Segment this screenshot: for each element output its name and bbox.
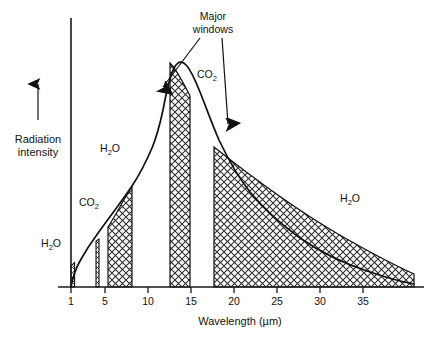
tick-label-10: 10: [142, 295, 154, 307]
x-axis-tick-labels: 1 5 10 15 20 25 30 35: [68, 295, 369, 307]
co2-2-sub: 2: [213, 74, 217, 83]
co2-2-main: CO: [197, 68, 213, 80]
tick-label-1: 1: [68, 295, 74, 307]
y-axis-title-line1: Radiation: [15, 133, 61, 145]
callout-leader-right: [222, 38, 228, 124]
svg-text:CO2: CO2: [197, 68, 217, 83]
co2-1-sub: 2: [95, 202, 99, 211]
svg-text:H2O: H2O: [100, 142, 120, 157]
tick-label-30: 30: [314, 295, 326, 307]
band-label-co2-2: CO2: [197, 68, 217, 83]
absorption-band-co2-1: [96, 239, 99, 287]
y-axis-title-line2: intensity: [18, 146, 59, 158]
absorption-band-h2o-2: [108, 186, 132, 287]
svg-text:H2O: H2O: [41, 237, 61, 252]
callout-label-line2: windows: [192, 23, 233, 35]
radiation-spectrum-figure: 1 5 10 15 20 25 30 35 Wavelength (µm) Ra…: [0, 0, 441, 338]
tick-label-25: 25: [271, 295, 283, 307]
h2o-1-main: H: [41, 237, 49, 249]
x-axis-title: Wavelength (µm): [198, 315, 282, 327]
x-axis-ticks: [71, 287, 363, 293]
callout-label-line1: Major: [200, 10, 227, 22]
chart-svg: 1 5 10 15 20 25 30 35 Wavelength (µm) Ra…: [0, 0, 441, 338]
tick-label-15: 15: [185, 295, 197, 307]
h2o-3-main: H: [340, 192, 348, 204]
h2o-2-tail: O: [112, 142, 120, 154]
tick-label-20: 20: [228, 295, 240, 307]
tick-label-5: 5: [102, 295, 108, 307]
tick-label-35: 35: [357, 295, 369, 307]
svg-text:H2O: H2O: [340, 192, 360, 207]
band-label-h2o-2: H2O: [100, 142, 120, 157]
y-axis-title: Radiation intensity: [15, 133, 61, 158]
absorption-bands: [71, 63, 414, 287]
absorption-band-h2o-3: [214, 147, 414, 287]
co2-1-main: CO: [79, 196, 95, 208]
svg-text:CO2: CO2: [79, 196, 99, 211]
band-label-h2o-1: H2O: [41, 237, 61, 252]
band-label-co2-1: CO2: [79, 196, 99, 211]
h2o-3-tail: O: [352, 192, 360, 204]
band-label-h2o-3: H2O: [340, 192, 360, 207]
h2o-2-main: H: [100, 142, 108, 154]
absorption-band-co2-2: [170, 63, 190, 287]
h2o-1-tail: O: [53, 237, 61, 249]
